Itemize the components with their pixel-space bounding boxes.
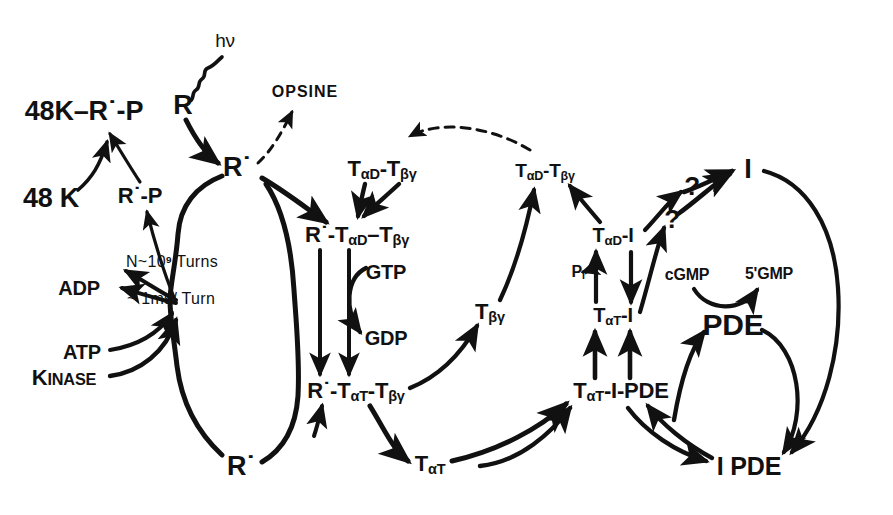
label-48k: 48 K <box>23 185 79 212</box>
arrow-gtp-gdp-exchange <box>349 268 366 332</box>
arrow-left-into-tat-i-pde <box>480 408 570 466</box>
hv-wavy-arrow <box>190 57 222 101</box>
arrow-tat-to-tat-i-pde <box>452 404 566 461</box>
arrow-i-pde-to-tat-i-pde <box>648 406 712 458</box>
label-kinase-initial: K <box>32 365 48 390</box>
label-rstar-p: R˙-P <box>118 185 162 207</box>
arrow-r-to-rstar <box>186 120 218 163</box>
label-r-tat-tbg: R˙-TαT-Tβγ <box>307 380 405 404</box>
arrow-tad-i-to-tad-tbg-right <box>570 186 600 222</box>
label-cgmp: cGMP <box>665 267 710 283</box>
label-hv: hν <box>215 31 235 50</box>
arrow-kinase-in <box>110 320 176 376</box>
label-r-tad-tbg: R˙-TαD–Tβγ <box>305 224 409 248</box>
loop-rstar-down-left <box>170 176 222 455</box>
label-atp: ATP <box>63 342 101 362</box>
label-adp: ADP <box>58 278 100 298</box>
label-question-upper: ? <box>684 173 700 199</box>
arrow-tat-i-to-question-lower <box>640 228 664 312</box>
label-pi: PI <box>571 264 584 281</box>
label-opsine: OPSINE <box>272 84 338 100</box>
label-pde: PDE <box>702 310 763 340</box>
arrow-complex-to-tat <box>370 406 408 461</box>
phototransduction-diagram: hν R OPSINE 48K–R˙-P R˙ 48 K R˙-P TαD-Tβ… <box>0 0 893 515</box>
label-kinase: KINASE <box>32 367 96 389</box>
label-rstar-top: R˙ <box>223 154 251 181</box>
label-turns: N~109 Turns <box>126 254 218 270</box>
label-tat-i-pde: TαT-I-PDE <box>573 380 668 404</box>
arrow-rstar-to-opsine <box>258 112 292 163</box>
label-5gmp: 5'GMP <box>745 266 793 282</box>
arrow-cgmp-to-5gmp <box>694 289 757 306</box>
label-turns-word: Turns <box>172 253 218 270</box>
arrow-bottom-to-tat-complex <box>314 406 322 436</box>
loop-bottom-rstar-up-right <box>262 184 299 462</box>
arrow-rstar-to-r-tad-tbg <box>262 178 326 222</box>
label-gtp: GTP <box>366 262 407 282</box>
label-48k-rstar-p-text: 48K–R˙-P <box>25 96 143 126</box>
arrow-tad-tbg-into-complex-b <box>364 184 399 216</box>
label-r: R <box>173 92 192 119</box>
arrow-complex-to-tbg <box>410 326 477 388</box>
arrow-tbg-to-tad-tbg-right <box>500 190 534 300</box>
label-i: I <box>744 156 751 183</box>
label-kinase-rest: INASE <box>47 370 96 388</box>
arrow-tad-tbg-into-complex-a <box>358 184 365 216</box>
label-gdp: GDP <box>365 328 408 348</box>
label-rstar-bottom: R˙ <box>227 453 255 480</box>
arrow-pde-to-i-pde <box>762 330 798 452</box>
arrow-48k-to-complex <box>78 142 107 190</box>
label-tat-i: TαT-I <box>593 305 633 327</box>
arrow-tat-i-pde-to-pde <box>674 332 704 420</box>
label-ms-per-turn: ~ 1ms/ Turn <box>127 291 215 307</box>
arrow-dashed-return-to-tad-tbg <box>410 127 530 150</box>
label-question-lower: ? <box>664 206 680 232</box>
label-tad-i: TαD-I <box>592 225 633 247</box>
label-i-pde: I PDE <box>717 454 781 479</box>
label-turns-n: N~10 <box>126 253 166 270</box>
label-tat: TαT <box>415 453 446 477</box>
arrow-atp-in <box>110 314 172 350</box>
label-tad-tbg-mid: TαD-Tβγ <box>347 158 416 182</box>
label-48k-rstar-p: 48K–R˙-P <box>25 98 143 125</box>
label-tad-tbg-right: TαD-Tβγ <box>515 161 575 182</box>
loop-i-to-i-pde <box>764 171 839 452</box>
arrow-tat-i-pde-to-i-pde <box>628 408 706 461</box>
arrow-rstarp-to-48k-rstarp <box>110 134 140 182</box>
label-tbg: Tβγ <box>475 301 505 325</box>
